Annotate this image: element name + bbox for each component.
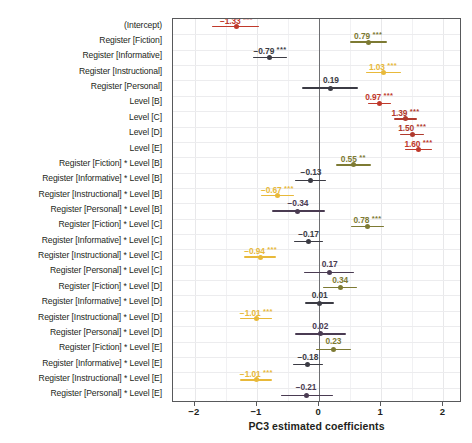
estimate-point [305,362,310,367]
estimate-value-label: 0.97 *** [365,91,393,102]
gridline-horizontal [173,265,460,266]
estimate-point [304,393,309,398]
y-axis-label: Register [Instructional] [0,67,162,76]
estimate-point [317,301,322,306]
x-axis-tick-label: 2 [440,406,445,417]
y-axis-category-labels: (Intercept)Register [Fiction]Register [I… [0,18,168,402]
gridline-horizontal [173,157,460,158]
significance-stars: *** [414,122,426,131]
estimate-value-label: 1.50 *** [398,122,426,133]
y-axis-label: Register [Fiction] * Level [C] [0,220,162,229]
gridline-horizontal [173,249,460,250]
estimate-value-label: 1.60 *** [404,138,432,149]
y-axis-label: Register [Instructional] * Level [C] [0,251,162,260]
gridline-horizontal [173,311,460,312]
estimate-point [318,331,323,336]
gridline-horizontal [173,188,460,189]
y-axis-label: Level [D] [0,128,162,137]
gridline-vertical [412,19,413,401]
estimate-value-label: 0.55 ** [341,153,366,164]
significance-stars: *** [369,214,381,223]
y-axis-label: Register [Fiction] * Level [B] [0,159,162,168]
estimate-point [331,347,336,352]
estimate-value-label: −0.18 [298,353,319,362]
x-axis-tick-label: −1 [250,406,261,417]
y-axis-label: Level [C] [0,113,162,122]
estimate-value-label: −0.17 [298,230,319,239]
estimate-value-label: −0.13 [301,168,322,177]
y-axis-label: Register [Personal] * Level [C] [0,266,162,275]
gridline-horizontal [173,96,460,97]
x-axis-title: PC3 estimated coefficients [172,420,461,432]
estimate-point [295,209,300,214]
gridline-vertical [226,19,227,401]
significance-stars: *** [407,107,419,116]
y-axis-label: Register [Personal] * Level [B] [0,205,162,214]
estimate-value-label: 0.79 *** [354,30,382,41]
gridline-vertical [195,19,196,401]
estimate-value-label: 0.17 [322,260,338,269]
estimate-value-label: −1.01 *** [240,307,273,318]
x-axis-tick-label: −2 [188,406,199,417]
estimate-value-label: −0.34 [288,199,309,208]
gridline-horizontal [173,50,460,51]
estimate-value-label: −0.21 [296,383,317,392]
estimate-value-label: 0.23 [325,337,341,346]
y-axis-label: Register [Fiction] [0,36,162,45]
gridline-horizontal [173,219,460,220]
estimate-value-label: −0.79 *** [254,45,287,56]
estimate-point [308,178,313,183]
estimate-value-label: 0.02 [312,322,328,331]
y-axis-label: Register [Informative] * Level [C] [0,236,162,245]
x-axis-tick-label: 0 [315,406,320,417]
gridline-horizontal [173,342,460,343]
estimate-value-label: −0.67 *** [261,184,294,195]
estimate-value-label: 1.03 *** [369,61,397,72]
y-axis-label: Register [Fiction] * Level [E] [0,343,162,352]
gridline-vertical [257,19,258,401]
y-axis-label: Register [Informative] * Level [E] [0,359,162,368]
y-axis-label: Level [B] [0,97,162,106]
y-axis-label: (Intercept) [0,21,162,30]
significance-stars: *** [261,368,273,377]
estimate-value-label: −0.94 *** [244,245,277,256]
y-axis-label: Register [Instructional] * Level [D] [0,313,162,322]
gridline-horizontal [173,34,460,35]
gridline-vertical [350,19,351,401]
significance-stars: *** [381,91,393,100]
estimate-point [328,86,333,91]
y-axis-label: Register [Personal] [0,82,162,91]
plot-area: −1.33 ***0.79 ***−0.79 ***1.03 ***0.190.… [172,18,461,402]
y-axis-label: Register [Personal] * Level [D] [0,328,162,337]
x-axis: −2−1012 [172,402,461,420]
y-axis-label: Register [Instructional] * Level [B] [0,190,162,199]
y-axis-label: Register [Fiction] * Level [D] [0,282,162,291]
significance-stars: *** [274,45,286,54]
estimate-value-label: 0.34 [332,276,348,285]
gridline-horizontal [173,372,460,373]
significance-stars: *** [241,18,253,24]
y-axis-label: Register [Informative] * Level [D] [0,297,162,306]
significance-stars: *** [385,61,397,70]
y-axis-label: Register [Informative] * Level [B] [0,174,162,183]
estimate-value-label: 1.39 *** [391,107,419,118]
significance-stars: ** [357,153,366,162]
gridline-vertical [443,19,444,401]
gridline-horizontal [173,80,460,81]
x-axis-tick-label: 1 [378,406,383,417]
estimate-value-label: 0.01 [312,291,328,300]
gridline-horizontal [173,203,460,204]
y-axis-label: Register [Informative] [0,51,162,60]
gridline-horizontal [173,65,460,66]
y-axis-label: Register [Personal] * Level [E] [0,389,162,398]
gridline-horizontal [173,280,460,281]
significance-stars: *** [265,245,277,254]
estimate-point [338,285,343,290]
gridline-vertical [381,19,382,401]
coefficient-plot: (Intercept)Register [Fiction]Register [I… [0,0,472,443]
estimate-value-label: −1.33 *** [220,18,253,25]
significance-stars: *** [370,30,382,39]
estimate-point [306,239,311,244]
y-axis-label: Register [Instructional] * Level [E] [0,374,162,383]
y-axis-label: Level [E] [0,144,162,153]
